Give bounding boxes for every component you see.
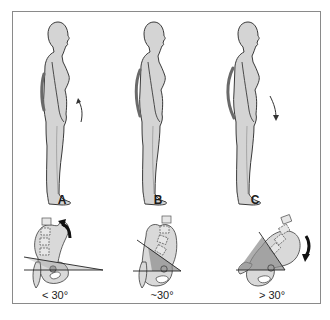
figure-a-standing [42, 22, 71, 205]
pelvis-diagram-b [133, 216, 181, 288]
pelvis-diagram-a [24, 218, 103, 288]
pelvis-diagram-c [236, 215, 310, 286]
angle-label-b: ~30° [137, 289, 187, 301]
angle-label-c: > 30° [247, 289, 297, 301]
angle-label-a: < 30° [30, 289, 80, 301]
panel-label-a: A [52, 193, 72, 207]
figure-c-standing [228, 22, 261, 205]
panel-label-b: B [148, 193, 168, 207]
rotation-arrow-down-icon [270, 96, 279, 121]
figure-b-standing [136, 22, 166, 205]
rotation-arrow-up-icon [76, 98, 82, 122]
posture-illustration [0, 0, 330, 320]
panel-label-c: C [245, 193, 265, 207]
